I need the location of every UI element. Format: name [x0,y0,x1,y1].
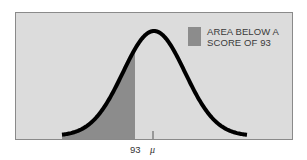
score-93-label: 93 [130,144,141,155]
mean-mu-label: μ [150,144,155,155]
legend: AREA BELOW A SCORE OF 93 [188,26,279,48]
legend-label-line2: SCORE OF 93 [207,37,279,48]
legend-label-line1: AREA BELOW A [207,26,279,37]
normal-distribution-chart [0,0,307,160]
legend-label: AREA BELOW A SCORE OF 93 [207,26,279,48]
legend-swatch [188,27,201,46]
